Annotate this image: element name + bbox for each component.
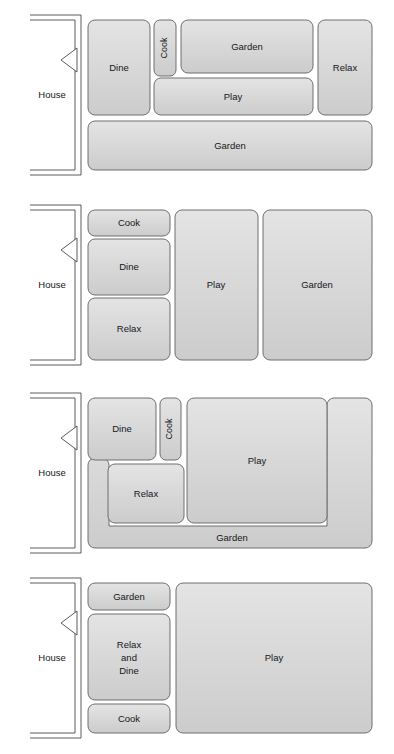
zone-garden[interactable]: Garden	[263, 210, 372, 360]
house-label: House	[38, 279, 65, 290]
zone-cook-label: Cook	[118, 217, 140, 228]
door-swing-icon	[61, 48, 77, 72]
door-swing-icon	[61, 426, 77, 450]
zone-dine-label: Dine	[109, 62, 129, 73]
zone-play[interactable]: Play	[187, 398, 327, 523]
zone-garden[interactable]: Garden	[88, 583, 170, 610]
layout-option-3-canvas: House Garden Dine Cook Relax Play	[0, 378, 394, 563]
zone-cook[interactable]: Cook	[88, 210, 170, 236]
zone-play[interactable]: Play	[154, 78, 313, 115]
zone-relax[interactable]: Relax	[318, 20, 372, 115]
door-swing-icon	[61, 611, 77, 635]
zone-cook[interactable]: Cook	[88, 704, 170, 733]
layout-option-2: House Cook Dine Relax Play Garden	[0, 190, 394, 378]
layout-option-3: House Garden Dine Cook Relax Play	[0, 378, 394, 563]
zone-play-label: Play	[224, 91, 243, 102]
zone-garden-label: Garden	[301, 279, 333, 290]
zone-play-label: Play	[265, 652, 284, 663]
zone-relax-label: Relax	[333, 62, 358, 73]
zone-garden-top[interactable]: Garden	[181, 20, 313, 73]
zone-play[interactable]: Play	[175, 210, 258, 360]
zone-dine[interactable]: Dine	[88, 398, 156, 460]
zone-relax-and-dine-label-line3: Dine	[119, 665, 139, 676]
zone-relax-and-dine-label-line2: and	[121, 652, 137, 663]
zone-play-label: Play	[248, 455, 267, 466]
house-label: House	[38, 652, 65, 663]
house-label: House	[38, 89, 65, 100]
zone-garden-bottom-label: Garden	[214, 140, 246, 151]
zone-dine[interactable]: Dine	[88, 20, 150, 115]
layout-option-2-canvas: House Cook Dine Relax Play Garden	[0, 190, 394, 378]
zone-play[interactable]: Play	[176, 583, 372, 733]
zone-cook-label: Cook	[118, 713, 140, 724]
zone-relax-label: Relax	[134, 488, 159, 499]
zone-garden-top-label: Garden	[231, 41, 263, 52]
layout-option-1: House Dine Cook Garden Play Relax	[0, 0, 394, 190]
diagram-sheet: House Dine Cook Garden Play Relax	[0, 0, 394, 754]
layout-option-4: House Garden Relax and Dine Cook Play	[0, 563, 394, 754]
zone-relax-and-dine[interactable]: Relax and Dine	[88, 614, 170, 700]
zone-garden-label: Garden	[113, 591, 145, 602]
zone-dine-label: Dine	[112, 423, 132, 434]
zone-dine-label: Dine	[119, 261, 139, 272]
zone-relax[interactable]: Relax	[108, 464, 184, 523]
zone-garden-bottom[interactable]: Garden	[88, 121, 372, 170]
zone-cook[interactable]: Cook	[160, 398, 181, 460]
zone-play-label: Play	[207, 279, 226, 290]
zone-cook-label: Cook	[164, 418, 174, 440]
layout-option-1-canvas: House Dine Cook Garden Play Relax	[0, 0, 394, 190]
layout-option-4-canvas: House Garden Relax and Dine Cook Play	[0, 563, 394, 754]
zone-relax-and-dine-label-line1: Relax	[117, 639, 142, 650]
zone-relax-label: Relax	[117, 323, 142, 334]
zone-relax[interactable]: Relax	[88, 298, 170, 360]
door-swing-icon	[61, 238, 77, 262]
zone-cook[interactable]: Cook	[154, 20, 176, 76]
zone-cook-label: Cook	[159, 37, 169, 59]
zone-dine[interactable]: Dine	[88, 239, 170, 295]
zone-garden-wrap-label: Garden	[216, 532, 248, 543]
house-label: House	[38, 467, 65, 478]
